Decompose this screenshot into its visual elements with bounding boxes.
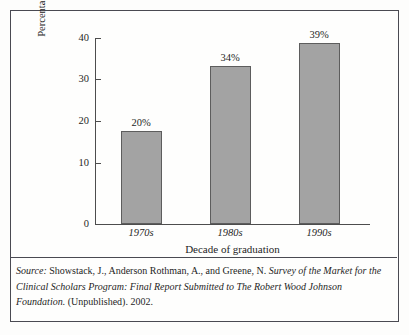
bar-group-1990s — [299, 38, 340, 224]
bar-value-1990s: 39% — [289, 29, 349, 40]
x-tick-label-1980s: 1980s — [195, 227, 265, 238]
x-axis-title: Decade of graduation — [95, 243, 370, 255]
y-axis-line — [95, 38, 96, 224]
y-tick-mark-10 — [96, 163, 101, 164]
y-tick-label-20: 20 — [63, 115, 89, 126]
source-publication: (Unpublished). 2002. — [68, 296, 153, 307]
y-tick-mark-30 — [96, 79, 101, 80]
source-divider — [11, 257, 397, 258]
y-tick-mark-20 — [96, 121, 101, 122]
x-tick-label-1970s: 1970s — [106, 227, 176, 238]
bar-group-1980s — [210, 38, 251, 224]
y-tick-label-10: 10 — [63, 157, 89, 168]
y-tick-label-40: 40 — [63, 32, 89, 43]
bar-value-1970s: 20% — [111, 117, 171, 128]
y-axis-title: Percentage of scholars not satisfied wit… — [36, 0, 66, 47]
y-tick-label-0: 0 — [63, 218, 89, 229]
figure-frame: Percentage of scholars not satisfied wit… — [10, 10, 399, 322]
source-label: Source: — [16, 265, 47, 276]
x-tick-label-1990s: 1990s — [284, 227, 354, 238]
y-tick-mark-40 — [96, 38, 101, 39]
source-note: Source: Showstack, J., Anderson Rothman,… — [16, 263, 392, 310]
figure-root: Percentage of scholars not satisfied wit… — [0, 0, 409, 335]
bar-1970s — [121, 131, 162, 224]
bar-value-1980s: 34% — [200, 52, 260, 63]
bar-group-1970s — [121, 38, 162, 224]
source-authors: Showstack, J., Anderson Rothman, A., and… — [49, 265, 266, 276]
bar-1980s — [210, 66, 251, 224]
bar-chart-plot-area: Percentage of scholars not satisfied wit… — [11, 11, 398, 256]
bar-1990s — [299, 43, 340, 224]
y-tick-label-30: 30 — [63, 73, 89, 84]
